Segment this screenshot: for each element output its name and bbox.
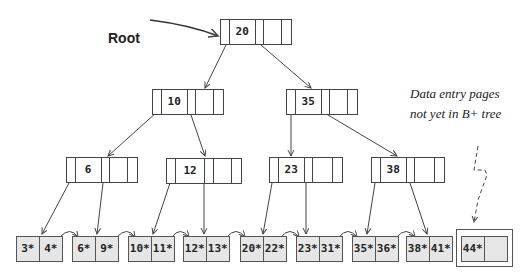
annotation-text: Data entry pages not yet in B+ tree — [410, 84, 501, 124]
pointer-slot — [282, 20, 291, 44]
node-key: 23 — [279, 158, 305, 182]
node-key: 20 — [230, 20, 256, 44]
data-entry: 11* — [152, 237, 174, 261]
node-key: 6 — [76, 158, 102, 182]
data-entry: 20* — [241, 237, 264, 261]
leaf-page: 12* 13* — [183, 236, 230, 262]
pointer-slot — [67, 158, 76, 182]
data-entry: 12* — [184, 237, 207, 261]
pointer-slot — [128, 158, 137, 182]
pointer-slot — [305, 158, 314, 182]
data-entry: 44* — [462, 237, 485, 261]
node-key: 35 — [296, 90, 322, 114]
root-label: Root — [108, 30, 140, 46]
data-entry: 35* — [353, 237, 376, 261]
internal-node-6: 6 — [66, 157, 138, 183]
leaf-page: 6* 9* — [72, 236, 119, 262]
internal-node-35: 35 — [286, 89, 358, 115]
pointer-slot — [232, 159, 241, 183]
node-key-empty — [196, 90, 214, 114]
data-entry: 36* — [376, 237, 398, 261]
node-key-empty — [110, 158, 128, 182]
data-entry: 31* — [320, 237, 342, 261]
leaf-page: 23* 31* — [296, 236, 343, 262]
internal-node-12: 12 — [166, 158, 242, 184]
pointer-slot — [372, 158, 381, 182]
data-entry: 10* — [129, 237, 152, 261]
pointer-slot — [221, 20, 230, 44]
pointer-slot — [153, 90, 162, 114]
internal-node-23: 23 — [269, 157, 343, 183]
pointer-slot — [214, 90, 223, 114]
data-entry: 41* — [430, 237, 452, 261]
leaf-page: 3* 4* — [16, 236, 63, 262]
node-key-empty — [214, 159, 232, 183]
pointer-slot — [205, 159, 214, 183]
leaf-page: 10* 11* — [128, 236, 175, 262]
root-node: 20 — [220, 19, 292, 45]
data-entry: 13* — [207, 237, 229, 261]
node-key-empty — [313, 158, 333, 182]
data-entry: 9* — [96, 237, 118, 261]
pointer-slot — [287, 90, 296, 114]
pointer-slot — [256, 20, 265, 44]
data-entry: 4* — [40, 237, 62, 261]
annotation-line-2: not yet in B+ tree — [410, 104, 501, 124]
leaf-page: 20* 22* — [240, 236, 287, 262]
pointer-slot — [407, 158, 416, 182]
node-key: 10 — [162, 90, 188, 114]
data-entry: 38* — [407, 237, 430, 261]
data-entry: 3* — [17, 237, 40, 261]
pointer-slot — [102, 158, 111, 182]
leaf-page: 38* 41* — [406, 236, 453, 262]
node-key-empty — [415, 158, 435, 182]
pointer-slot — [188, 90, 197, 114]
internal-node-10: 10 — [152, 89, 224, 115]
node-key: 38 — [381, 158, 407, 182]
pointer-slot — [348, 90, 357, 114]
annotation-line-1: Data entry pages — [410, 84, 501, 104]
data-entry: 23* — [297, 237, 320, 261]
node-key-empty — [264, 20, 282, 44]
data-entry-empty — [485, 237, 507, 261]
pointer-slot — [435, 158, 444, 182]
pointer-slot — [333, 158, 342, 182]
internal-node-38: 38 — [371, 157, 445, 183]
data-entry: 22* — [264, 237, 286, 261]
node-key-empty — [330, 90, 348, 114]
pointer-slot — [322, 90, 331, 114]
data-entry: 6* — [73, 237, 96, 261]
pending-leaf-page: 44* — [461, 236, 508, 262]
bplus-tree-diagram: Root 20 10 35 6 12 23 — [0, 0, 526, 280]
leaf-page: 35* 36* — [352, 236, 399, 262]
node-key: 12 — [176, 159, 206, 183]
pointer-slot — [167, 159, 176, 183]
pointer-slot — [270, 158, 279, 182]
